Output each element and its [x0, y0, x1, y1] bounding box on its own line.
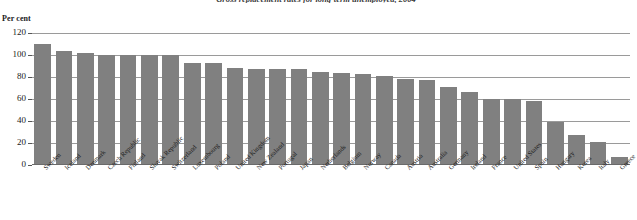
y-axis-unit-label: Per cent — [2, 14, 31, 23]
bar — [504, 99, 521, 165]
chart-title: Gross replacement rates for long-term un… — [0, 0, 632, 3]
y-axis-tick-label: 80 — [2, 72, 26, 81]
y-axis-tick-label: 120 — [2, 28, 26, 37]
y-axis-tick-label: 20 — [2, 138, 26, 147]
bar — [312, 72, 329, 166]
bar — [56, 51, 73, 165]
bar — [227, 68, 244, 165]
bar — [141, 55, 158, 165]
y-axis-tick-label: 40 — [2, 116, 26, 125]
x-axis-category-labels: SwedenIcelandDenmarkCzech RepublicFinlan… — [32, 166, 630, 220]
bar — [397, 79, 414, 165]
y-axis-tick-label: 100 — [2, 50, 26, 59]
y-axis-tick-label: 60 — [2, 94, 26, 103]
bar — [34, 44, 51, 165]
bar — [419, 80, 436, 165]
bar — [77, 53, 94, 165]
y-axis-tick-label: 0 — [2, 160, 26, 169]
